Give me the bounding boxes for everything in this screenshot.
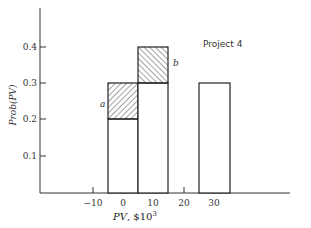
chart: 0.1 0.2 0.3 0.4 Prob(PV) −10 0 10 20 30 … [0,0,311,228]
bar-30 [199,83,230,193]
bar-0 [108,83,138,193]
project-annotation: Project 4 [203,39,243,49]
x-tick-label: 30 [208,198,220,208]
y-tick-label: 0.2 [23,114,37,124]
hatch-label-b: b [173,58,179,68]
x-tick-label: −10 [84,198,103,208]
x-tick-label: 10 [147,198,159,208]
y-tick-label: 0.3 [23,78,38,88]
hatch-region-a [108,83,138,119]
y-axis-label: Prob(PV) [8,84,18,127]
hatch-region-b [138,47,168,83]
x-axis-label: PV, $103 [112,210,157,222]
y-ticks [40,47,46,156]
x-tick-label: 0 [120,198,126,208]
hatch-label-a: a [100,99,105,109]
x-tick-label: 20 [178,198,190,208]
y-tick-label: 0.4 [23,42,38,52]
y-tick-label: 0.1 [23,151,37,161]
bar-10 [138,47,168,193]
